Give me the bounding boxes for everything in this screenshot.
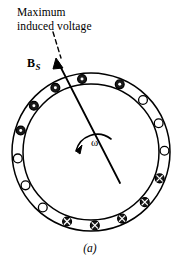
- conductor-slot-in: [90, 221, 99, 230]
- conductor-slot-in: [140, 198, 149, 207]
- current-out-dot-icon: [118, 83, 121, 86]
- conductor-slot-in: [63, 217, 72, 226]
- angular-velocity-label: ω: [91, 136, 98, 148]
- conductor-slot-out: [16, 126, 25, 135]
- machine-cross-section-figure: Maximum induced voltage BS ω (a): [0, 0, 180, 266]
- leader-dashed-line: [53, 32, 61, 58]
- field-vector-subscript: S: [36, 62, 41, 72]
- conductor-slot-empty: [38, 203, 47, 212]
- field-vector-label: BS: [27, 56, 41, 72]
- conductor-slot-group: [13, 75, 169, 230]
- conductor-slot-in: [155, 174, 164, 183]
- figure-caption: (a): [0, 242, 180, 254]
- conductor-slot-out: [51, 83, 60, 92]
- conductor-slot-empty: [139, 96, 148, 105]
- inner-ring-circle: [23, 84, 159, 220]
- current-out-dot-icon: [81, 78, 84, 81]
- conductor-slot-out: [78, 75, 87, 84]
- conductor-slot-empty: [21, 181, 30, 190]
- conductor-slot-out: [115, 80, 124, 89]
- conductor-slot-in: [118, 214, 127, 223]
- maximum-induced-voltage-label: Maximum induced voltage: [17, 6, 129, 33]
- field-vector-symbol: B: [27, 56, 35, 70]
- conductor-slot-empty: [160, 146, 169, 155]
- current-out-dot-icon: [19, 129, 22, 132]
- current-out-dot-icon: [32, 104, 35, 107]
- current-out-dot-icon: [54, 86, 57, 89]
- conductor-slot-empty: [13, 154, 22, 163]
- conductor-slot-empty: [154, 119, 163, 128]
- stator-diagram-svg: [0, 0, 180, 266]
- conductor-slot-out: [29, 101, 38, 110]
